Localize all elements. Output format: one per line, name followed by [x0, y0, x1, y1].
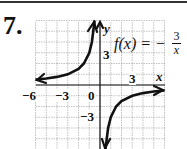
- x-axis-label: x: [156, 70, 163, 83]
- x-tick-3: 3: [129, 72, 136, 85]
- y-tick-neg3: −3: [80, 110, 94, 123]
- x-tick-neg6: −6: [22, 89, 36, 102]
- curve-left-branch: [36, 21, 95, 80]
- function-fraction: 3 x: [172, 30, 181, 56]
- fraction-denominator: x: [172, 44, 181, 56]
- y-tick-3: 3: [103, 48, 110, 61]
- curve-right-branch: [105, 90, 164, 149]
- origin-label: 0: [88, 89, 95, 102]
- fraction-numerator: 3: [172, 30, 181, 42]
- y-axis-label: y: [104, 22, 110, 35]
- function-label: f(x) = −: [114, 36, 166, 52]
- x-tick-neg3: −3: [55, 89, 69, 102]
